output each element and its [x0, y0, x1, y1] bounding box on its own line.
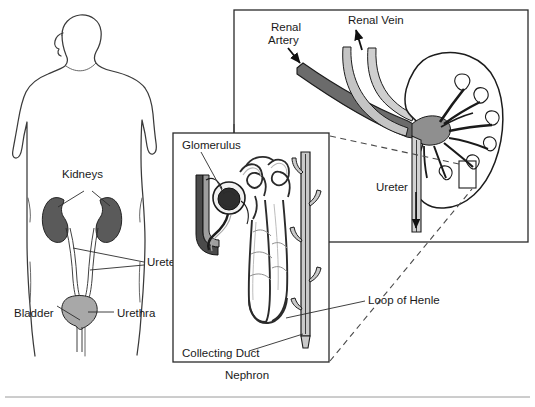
label-ureter: Ureter — [376, 181, 408, 193]
label-bladder: Bladder — [14, 307, 54, 319]
figure-canvas: Kidneys Ureters Bladder Urethra — [0, 0, 535, 407]
label-renal-artery-line1: Renal — [271, 21, 301, 33]
ureters-leader-lower — [90, 265, 144, 270]
right-ureter-tube-inner — [84, 228, 94, 300]
hip-line-right — [139, 262, 140, 302]
label-urethra: Urethra — [117, 307, 156, 319]
label-kidneys: Kidneys — [62, 168, 103, 180]
collar-line — [66, 63, 96, 71]
label-collecting-duct: Collecting Duct — [182, 347, 260, 359]
label-loop-of-henle: Loop of Henle — [368, 294, 440, 306]
nephron-panel-group: Glomerulus Collecting Duct Nephron — [173, 133, 329, 381]
collecting-duct-tip — [301, 336, 310, 348]
label-glomerulus: Glomerulus — [182, 139, 241, 151]
label-renal-artery-line2: Artery — [268, 34, 299, 46]
waist-line-left — [28, 198, 30, 222]
urinary-system-figure: Kidneys Ureters Bladder Urethra — [0, 0, 535, 407]
ureters-leader-upper — [73, 248, 144, 262]
hip-line-left — [30, 262, 31, 302]
left-kidney-organ — [42, 198, 68, 243]
human-figure-group: Kidneys Ureters Bladder Urethra — [13, 15, 185, 356]
right-kidney-organ — [96, 198, 122, 243]
waist-line-right — [140, 198, 142, 222]
left-ureter-tube — [66, 228, 77, 300]
label-renal-vein: Renal Vein — [348, 14, 404, 26]
label-nephron-caption: Nephron — [225, 369, 269, 381]
